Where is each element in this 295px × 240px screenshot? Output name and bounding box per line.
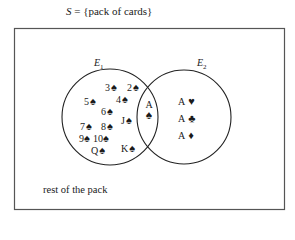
spade-icon: ♠ bbox=[111, 81, 117, 93]
card-2-spades: 2♠ bbox=[127, 82, 139, 93]
card-8-spades: 8♠ bbox=[101, 121, 113, 132]
club-icon: ♣ bbox=[188, 112, 195, 124]
card-q-spades: Q♠ bbox=[91, 145, 105, 156]
card-rank: 10 bbox=[93, 133, 103, 144]
spade-icon: ♠ bbox=[129, 142, 135, 154]
card-j-spades: J♠ bbox=[121, 115, 132, 126]
set-e1-label: E1 bbox=[94, 57, 104, 71]
card-a-diamonds: A ♦ bbox=[178, 130, 194, 141]
spade-icon: ♠ bbox=[133, 81, 139, 93]
card-rank: Q bbox=[91, 145, 98, 156]
card-rank: K bbox=[121, 143, 128, 154]
spade-icon: ♠ bbox=[86, 120, 92, 132]
spade-icon: ♠ bbox=[126, 114, 132, 126]
card-a-clubs: A ♣ bbox=[178, 113, 195, 124]
card-9-spades: 9♠ bbox=[79, 133, 90, 144]
set-e2-subscript: 2 bbox=[203, 63, 207, 71]
set-e1-subscript: 1 bbox=[100, 63, 104, 71]
spade-icon: ♠ bbox=[122, 93, 128, 105]
card-rank: 2 bbox=[127, 82, 132, 93]
spade-icon: ♠ bbox=[107, 105, 113, 117]
card-a-spades-intersection: A ♠ bbox=[143, 99, 155, 121]
card-rank: J bbox=[121, 115, 125, 126]
card-3-spades: 3♠ bbox=[105, 82, 117, 93]
rest-of-pack-label: rest of the pack bbox=[43, 184, 107, 195]
card-rank: A bbox=[178, 130, 185, 141]
spade-icon: ♠ bbox=[84, 132, 90, 144]
diamond-icon: ♦ bbox=[188, 129, 194, 141]
card-k-spades: K♠ bbox=[121, 143, 135, 154]
card-rank: 8 bbox=[101, 121, 106, 132]
card-rank: 5 bbox=[84, 96, 89, 107]
spade-icon: ♠ bbox=[103, 132, 109, 144]
card-7-spades: 7♠ bbox=[80, 121, 92, 132]
card-rank: 7 bbox=[80, 121, 85, 132]
card-rank: 6 bbox=[101, 106, 106, 117]
card-rank: A bbox=[178, 96, 185, 107]
card-rank: A bbox=[178, 113, 185, 124]
card-5-spades: 5♠ bbox=[84, 96, 96, 107]
card-a-hearts: A ♥ bbox=[178, 96, 195, 107]
spade-icon: ♠ bbox=[107, 120, 113, 132]
card-4-spades: 4♠ bbox=[116, 94, 128, 105]
heart-icon: ♥ bbox=[188, 95, 195, 107]
card-6-spades: 6♠ bbox=[101, 106, 113, 117]
spade-icon: ♠ bbox=[143, 110, 155, 121]
set-e2-label: E2 bbox=[197, 57, 207, 71]
card-rank: 4 bbox=[116, 94, 121, 105]
spade-icon: ♠ bbox=[90, 95, 96, 107]
card-10-spades: 10♠ bbox=[93, 133, 109, 144]
card-rank: 3 bbox=[105, 82, 110, 93]
spade-icon: ♠ bbox=[99, 144, 105, 156]
